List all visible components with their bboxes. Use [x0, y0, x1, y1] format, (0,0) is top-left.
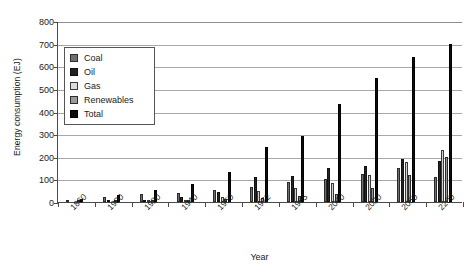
bar-coal [434, 177, 437, 202]
bar-group [324, 22, 342, 202]
y-tick-label: 500 [39, 85, 54, 95]
legend-label: Gas [84, 82, 101, 91]
legend-item-renewables: Renewables [70, 93, 150, 107]
legend-item-gas: Gas [70, 79, 150, 93]
bar-coal [177, 193, 180, 202]
bar-oil [291, 176, 294, 202]
bar-group [434, 22, 452, 202]
bar-gas [441, 150, 444, 202]
bar-coal [250, 187, 253, 202]
energy-consumption-bar-chart: Energy consumption (EJ) 0100200300400500… [0, 0, 474, 275]
legend-label: Oil [84, 68, 95, 77]
x-tick-mark [463, 202, 464, 207]
bar-coal [397, 168, 400, 202]
y-tick-mark [54, 158, 58, 159]
bar-total [375, 78, 378, 202]
legend-swatch-total-icon [70, 110, 78, 118]
legend-swatch-renewables-icon [70, 96, 78, 104]
legend-label: Total [84, 110, 103, 119]
bar-coal [287, 182, 290, 202]
y-axis-title: Energy consumption (EJ) [12, 12, 26, 202]
y-tick-mark [54, 113, 58, 114]
y-tick-label: 100 [39, 175, 54, 185]
bar-group [177, 22, 195, 202]
legend-item-coal: Coal [70, 51, 150, 65]
y-tick-label: 600 [39, 62, 54, 72]
legend-swatch-oil-icon [70, 68, 78, 76]
y-tick-mark [54, 135, 58, 136]
bar-total [338, 104, 341, 202]
y-tick-label: 700 [39, 40, 54, 50]
bar-oil [254, 177, 257, 202]
bar-group [361, 22, 379, 202]
legend-item-oil: Oil [70, 65, 150, 79]
x-axis-title: Year [57, 252, 462, 262]
legend-swatch-coal-icon [70, 54, 78, 62]
bar-oil [327, 168, 330, 202]
y-tick-mark [54, 90, 58, 91]
y-tick-mark [54, 67, 58, 68]
bar-coal [361, 174, 364, 202]
bar-total [412, 57, 415, 202]
x-axis-labels: 1860190019201940196019721985200020202050… [57, 205, 462, 245]
bar-total [449, 44, 452, 202]
legend-label: Renewables [84, 96, 134, 105]
bar-group [287, 22, 305, 202]
chart-legend: CoalOilGasRenewablesTotal [64, 47, 155, 125]
bar-oil [401, 159, 404, 202]
legend-swatch-gas-icon [70, 82, 78, 90]
bar-coal [140, 194, 143, 202]
y-tick-label: 800 [39, 17, 54, 27]
legend-item-total: Total [70, 107, 150, 121]
bar-group [397, 22, 415, 202]
y-tick-mark [54, 180, 58, 181]
y-tick-mark [54, 22, 58, 23]
y-tick-label: 200 [39, 153, 54, 163]
y-tick-mark [54, 203, 58, 204]
bar-group [213, 22, 231, 202]
y-tick-mark [54, 45, 58, 46]
y-tick-label: 300 [39, 130, 54, 140]
bar-coal [324, 179, 327, 202]
y-tick-label: 0 [49, 198, 54, 208]
bar-oil [438, 161, 441, 202]
bar-coal [213, 190, 216, 202]
bar-oil [364, 166, 367, 202]
legend-label: Coal [84, 54, 103, 63]
y-tick-label: 400 [39, 108, 54, 118]
bar-group [250, 22, 268, 202]
